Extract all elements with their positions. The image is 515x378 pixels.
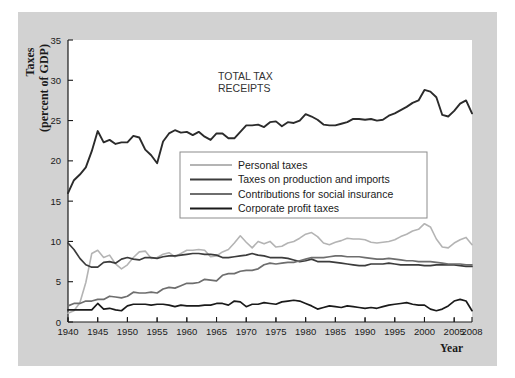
x-tick-label: 1940 xyxy=(57,326,78,337)
x-tick-label: 2008 xyxy=(461,326,482,337)
x-tick-label: 1965 xyxy=(206,326,227,337)
chart-svg: 0510152025303519401945195019551960196519… xyxy=(0,0,515,378)
x-tick-label: 2000 xyxy=(414,326,435,337)
x-tick-label: 1970 xyxy=(236,326,257,337)
legend-label-3: Corporate profit taxes xyxy=(238,202,339,214)
x-tick-label: 1990 xyxy=(354,326,375,337)
x-tick-label: 1995 xyxy=(384,326,405,337)
x-tick-label: 1950 xyxy=(117,326,138,337)
y-tick-label: 35 xyxy=(50,35,61,46)
figure-container: 0510152025303519401945195019551960196519… xyxy=(0,0,515,378)
legend-label-0: Personal taxes xyxy=(238,159,307,171)
y-tick-label: 25 xyxy=(50,115,61,126)
x-tick-label: 1980 xyxy=(295,326,316,337)
x-tick-label: 1960 xyxy=(176,326,197,337)
x-tick-label: 1985 xyxy=(325,326,346,337)
y-tick-label: 10 xyxy=(50,236,61,247)
legend-label-1: Taxes on production and imports xyxy=(238,173,390,185)
x-axis-label: Year xyxy=(440,342,463,354)
y-tick-label: 5 xyxy=(56,276,61,287)
y-tick-label: 20 xyxy=(50,155,61,166)
y-tick-label: 15 xyxy=(50,196,61,207)
x-tick-label: 1955 xyxy=(147,326,168,337)
y-tick-label: 30 xyxy=(50,75,61,86)
x-tick-label: 1975 xyxy=(265,326,286,337)
y-axis-label-line-1: Taxes xyxy=(23,47,37,76)
y-axis-label-line-2: (percent of GDP) xyxy=(37,44,51,132)
x-tick-label: 1945 xyxy=(87,326,108,337)
chart-plot-area: 0510152025303519401945195019551960196519… xyxy=(0,0,515,378)
annotation-line-1: TOTAL TAX xyxy=(218,70,273,82)
legend-label-2: Contributions for social insurance xyxy=(238,188,393,200)
annotation-line-2: RECEIPTS xyxy=(218,82,271,94)
